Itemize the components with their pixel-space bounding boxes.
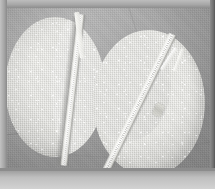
mat-edge-left xyxy=(0,0,7,189)
right-fabric-disc xyxy=(93,30,205,168)
mat-edge-top xyxy=(0,0,215,8)
mat-edge-bottom xyxy=(0,171,215,189)
mat-edge-right xyxy=(210,0,215,189)
right-disc-speckle xyxy=(93,30,205,168)
left-fabric-disc xyxy=(7,17,105,157)
left-disc-speckle xyxy=(7,17,105,157)
photo-viewport xyxy=(7,8,210,168)
photo-frame xyxy=(0,0,215,189)
